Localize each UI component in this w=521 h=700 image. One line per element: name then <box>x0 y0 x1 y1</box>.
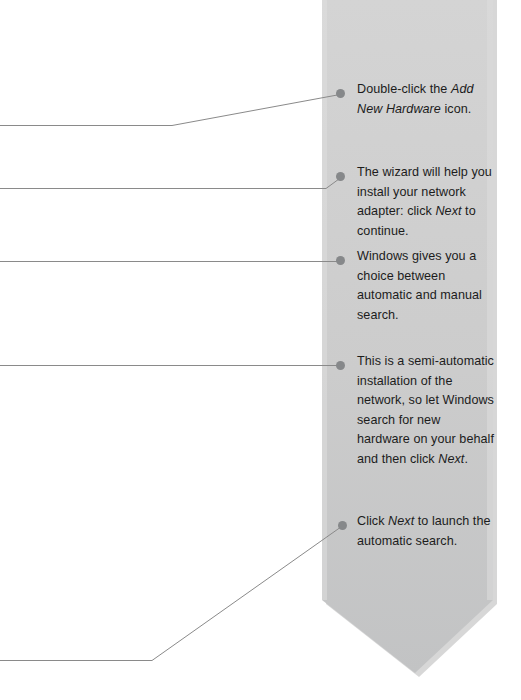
callout-text-launch-automatic-search: Click Next to launch the automatic searc… <box>357 512 496 551</box>
callout-marker-dot <box>336 256 345 265</box>
callout-text-add-new-hardware: Double-click the Add New Hardware icon. <box>357 80 496 119</box>
callout-marker-dot <box>336 89 345 98</box>
leader-line-5 <box>0 526 343 661</box>
annotated-figure-page: Double-click the Add New Hardware icon. … <box>0 0 521 700</box>
leader-line-2 <box>0 178 341 189</box>
callout-text-wizard-help: The wizard will help you install your ne… <box>357 163 496 241</box>
callout-text-automatic-manual-choice: Windows gives you a choice between autom… <box>357 247 496 325</box>
ribbon-left-highlight <box>322 0 327 600</box>
callout-marker-dot <box>338 521 347 530</box>
callout-marker-dot <box>336 361 345 370</box>
callout-marker-dot <box>336 172 345 181</box>
leader-line-1 <box>0 95 340 126</box>
callout-text-semi-automatic-install: This is a semi-automatic installation of… <box>357 352 496 470</box>
